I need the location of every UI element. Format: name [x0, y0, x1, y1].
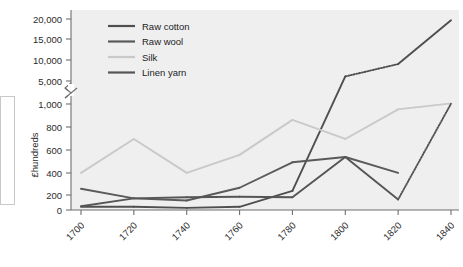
y-tick-label: 200	[46, 190, 62, 201]
y-tick-label: 10,000	[33, 55, 62, 66]
x-axis-ticks: 17001720174017601780180018201840	[64, 210, 457, 242]
y-axis-title: £hundreds	[29, 132, 40, 177]
series-segment-raw-cotton	[187, 207, 240, 208]
y-tick-label: 400	[46, 168, 62, 179]
series-segment-linen-yarn	[187, 197, 240, 198]
y-tick-label: 5,000	[38, 76, 62, 87]
y-tick-label: 15,000	[33, 34, 62, 45]
y-axis-ticks: 02004006008001,0005,00010,00015,00020,00…	[33, 14, 71, 216]
line-chart: 02004006008001,0005,00010,00015,00020,00…	[0, 0, 463, 267]
x-tick-label: 1800	[328, 220, 351, 243]
x-tick-label: 1820	[381, 220, 404, 243]
legend-label-linen-yarn: Linen yarn	[142, 67, 186, 78]
series-segment-raw-cotton	[134, 207, 187, 208]
y-tick-label: 600	[46, 145, 62, 156]
x-tick-label: 1700	[64, 220, 87, 243]
x-tick-label: 1740	[169, 220, 192, 243]
y-tick-label: 800	[46, 122, 62, 133]
y-tick-label: 20,000	[33, 14, 62, 25]
legend-label-raw-cotton: Raw cotton	[142, 21, 190, 32]
x-tick-label: 1720	[117, 220, 140, 243]
x-tick-label: 1760	[222, 220, 245, 243]
series-segment-linen-yarn	[134, 197, 187, 198]
legend-label-raw-wool: Raw wool	[142, 36, 183, 47]
plot-background	[71, 10, 459, 210]
chart-figure: 02004006008001,0005,00010,00015,00020,00…	[0, 0, 463, 267]
x-tick-label: 1840	[434, 220, 457, 243]
y-axis-title-text: £hundreds	[29, 132, 40, 177]
left-margin-rule	[1, 97, 15, 205]
y-tick-label: 1,000	[38, 99, 62, 110]
x-tick-label: 1780	[275, 220, 298, 243]
series-segment-linen-yarn	[240, 197, 293, 198]
y-tick-label: 0	[57, 205, 62, 216]
legend-label-silk: Silk	[142, 52, 158, 63]
